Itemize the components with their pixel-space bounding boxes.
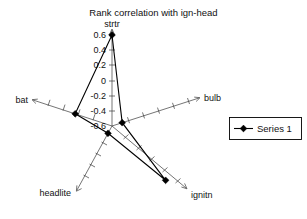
category-label-bulb: bulb — [204, 93, 221, 103]
tick-label-6: -0.6 — [90, 121, 106, 131]
category-label-bat: bat — [15, 95, 28, 105]
tick-label-3: 0 — [101, 76, 106, 86]
axis-spoke-headlite — [76, 126, 112, 191]
tick-label-1: 0.4 — [93, 45, 106, 55]
category-label-headlite: headlite — [39, 188, 71, 198]
legend[interactable]: Series 1 — [230, 118, 302, 140]
tick-label-0: 0.6 — [93, 30, 106, 40]
legend-label-series-1[interactable]: Series 1 — [257, 123, 292, 134]
axis-group — [32, 29, 200, 191]
axis-spoke-bulb — [112, 97, 200, 126]
category-label-strtr: strtr — [104, 19, 120, 29]
chart-title: Rank correlation with ign-head — [89, 7, 217, 18]
tick-label-group: 0.6 0.4 0.2 0 -0.2 -0.4 -0.6 — [90, 30, 106, 131]
axis-spoke-strtr — [109, 29, 115, 126]
data-point-strtr — [109, 32, 116, 39]
data-point-bat — [72, 110, 79, 117]
category-label-ignitn: ignitn — [191, 190, 213, 200]
tick-label-4: -0.2 — [90, 91, 106, 101]
radar-chart-svg: Rank correlation with ign-head — [0, 0, 307, 219]
category-label-group: strtr bulb ignitn headlite bat — [15, 19, 221, 200]
series-1-group — [72, 32, 169, 184]
axis-spoke-ignitn — [112, 126, 187, 189]
tick-label-5: -0.4 — [90, 106, 106, 116]
radar-chart-container: Rank correlation with ign-head — [0, 0, 307, 219]
